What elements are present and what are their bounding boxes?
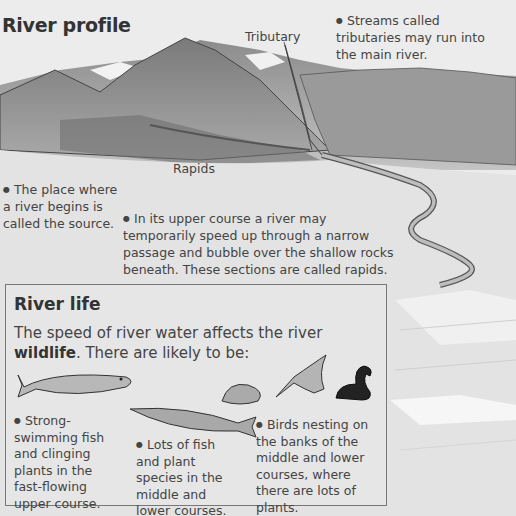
upper-course-wildlife-note: Strong-swimming fish and clinging plants… [14, 413, 114, 512]
trout-fish-icon [16, 365, 136, 405]
page-title: River profile [2, 14, 131, 36]
rapids-label: Rapids [173, 160, 215, 177]
birds-nesting-note: Birds nesting on the banks of the middle… [256, 417, 381, 516]
upper-course-note: In its upper course a river may temporar… [123, 210, 403, 278]
tributary-label: Tributary [245, 28, 300, 45]
middle-lower-fish-note: Lots of fish and plant species in the mi… [136, 437, 236, 516]
kingfisher-bird-icon [274, 353, 330, 401]
pike-fish-icon [128, 403, 258, 441]
coot-bird-icon [332, 362, 376, 402]
source-note: The place where a river begins is called… [3, 181, 118, 232]
streams-note: Streams called tributaries may run into … [336, 12, 506, 63]
river-life-title: River life [14, 294, 100, 314]
river-life-panel: River life The speed of river water affe… [5, 284, 387, 506]
small-fish-icon [218, 369, 268, 407]
